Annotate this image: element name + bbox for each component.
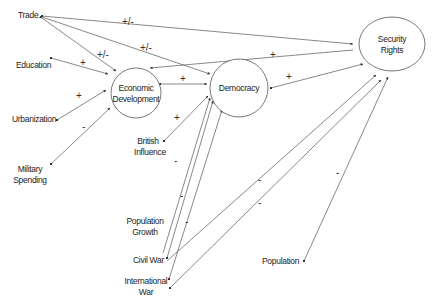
sign-education-econ: + [80,57,86,68]
sign-civilwar-security: - [258,174,261,185]
sign-trade-security: +/- [122,16,134,27]
node-democracy: Democracy [210,59,268,117]
var-trade: Trade [18,10,39,20]
sign-econ-democracy: + [180,73,186,84]
variable-labels: Trade Education Urbanization Military Sp… [12,10,300,297]
sign-popgrowth-democracy: - [174,155,177,166]
var-civilwar: Civil War [133,255,164,265]
node-label: Economic [119,83,155,93]
node-label: Rights [381,45,403,55]
var-intlwar: War [139,287,154,297]
var-intlwar: International [125,276,168,286]
var-education: Education [16,60,52,70]
var-population: Population [262,256,300,266]
node-security-rights: Security Rights [359,17,425,71]
edge-trade-econ [42,18,116,71]
sign-trade-democracy: +/- [140,42,152,53]
causal-diagram: +/- +/- +/- + + - + + + + - - - [0,0,439,308]
node-economic-development: Economic Development [111,68,161,118]
sign-british-democracy: + [174,112,180,123]
edge-civilwar-democracy [167,101,213,258]
edge-civilwar-security [167,75,376,261]
sign-civilwar-democracy: - [180,190,183,201]
sign-trade-econ: +/- [97,49,109,60]
sign-intlwar-democracy: - [185,216,188,227]
edge-intlwar-democracy [169,110,222,279]
edge-british-democracy [164,96,208,141]
edge-trade-security [42,16,353,44]
edges: +/- +/- +/- + + - + + + + - - - [42,16,388,288]
edge-military-econ [51,108,110,164]
edge-popgrowth-democracy [163,98,210,253]
var-british: British [137,136,159,146]
sign-urbanization-econ: + [76,90,82,101]
var-urbanization: Urbanization [12,114,57,124]
var-popgrowth: Population [126,216,164,226]
sign-security-econ: + [270,49,276,60]
node-label: Development [113,94,161,104]
node-label: Democracy [219,83,260,93]
sign-military-econ: - [82,121,85,132]
sign-population-security: - [336,167,339,178]
var-military: Military [18,164,44,174]
var-military: Spending [13,175,47,185]
node-label: Security [378,34,407,44]
sign-intlwar-security: - [258,197,261,208]
edge-population-security [304,77,388,261]
edge-democracy-security [271,64,363,88]
var-popgrowth: Growth [132,227,158,237]
var-british: Influence [134,147,166,157]
sign-democracy-security: + [286,71,292,82]
